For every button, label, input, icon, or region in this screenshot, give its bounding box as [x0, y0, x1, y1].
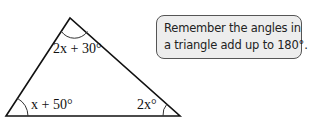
angle-label-top: 2x + 30°: [53, 41, 102, 56]
angle-arc-bottom-right: [163, 104, 167, 116]
hint-box: Remember the angles in a triangle add up…: [156, 15, 302, 59]
angle-label-bottom-right: 2x°: [137, 97, 157, 112]
angle-arc-top: [61, 31, 87, 38]
angle-arc-bottom-left: [18, 98, 29, 116]
hint-line-1: Remember the angles in: [164, 20, 295, 37]
angle-label-bottom-left: x + 50°: [31, 97, 73, 112]
hint-line-2: a triangle add up to 180°.: [164, 37, 295, 54]
